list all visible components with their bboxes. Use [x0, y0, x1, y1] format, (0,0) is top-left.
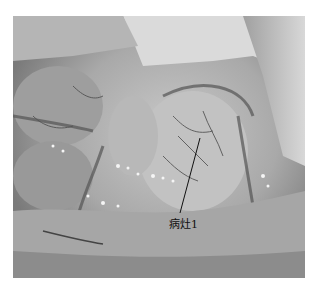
- surgical-photo: [13, 16, 305, 278]
- lesion-label: 病灶1: [169, 219, 198, 231]
- photo-image: [13, 16, 305, 278]
